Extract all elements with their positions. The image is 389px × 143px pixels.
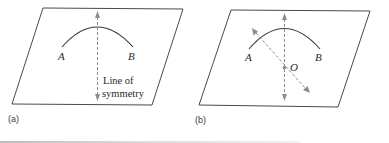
line-of-symmetry-label-1: Line of <box>103 75 134 86</box>
point-o-label: O <box>290 61 298 73</box>
point-a-label: A <box>57 50 65 62</box>
arrow-down-icon <box>95 94 100 101</box>
point-a-label: A <box>244 51 252 63</box>
panel-b: A B O (b) <box>195 10 370 125</box>
center-point-o <box>283 66 287 70</box>
arrow-up-icon <box>95 11 100 18</box>
point-b-label: B <box>128 50 135 62</box>
panel-a: A B Line of symmetry (a) <box>8 8 183 124</box>
arrow-up-icon <box>282 13 287 20</box>
arrow-down-icon <box>282 94 287 101</box>
panel-b-label: (b) <box>195 115 206 125</box>
symmetry-figure: A B Line of symmetry (a) A B O (b) <box>0 0 389 143</box>
bottom-divider <box>0 141 300 143</box>
panel-a-label: (a) <box>8 114 19 124</box>
point-b-label: B <box>315 51 322 63</box>
line-of-symmetry-label-2: symmetry <box>102 88 145 99</box>
diagonal-axis <box>256 33 306 89</box>
